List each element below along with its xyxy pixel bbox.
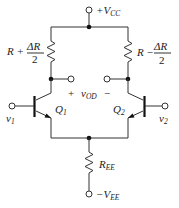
- left-resistor-denominator: 2: [32, 53, 38, 65]
- vee-label: −VEE: [96, 188, 120, 202]
- tail-resistor: REE: [85, 138, 115, 191]
- output-minus-sign: −: [104, 87, 110, 99]
- vcc-node-icon: [87, 25, 92, 30]
- vcc-supply: +VCC: [86, 4, 121, 27]
- output-port: + vOD −: [49, 76, 131, 101]
- v1-input-terminal-icon: [9, 103, 15, 109]
- left-collector-resistor: R + ΔR 2: [6, 38, 55, 79]
- output-plus-terminal-icon: [68, 76, 74, 82]
- left-resistor-numerator: ΔR: [26, 40, 40, 52]
- vcc-label: +VCC: [96, 4, 121, 18]
- transistor-q1: v1 Q1: [6, 79, 89, 138]
- v1-label: v1: [6, 112, 15, 126]
- q1-emitter-arrow-icon: [45, 114, 52, 119]
- resistor-zigzag-icon: [124, 38, 132, 79]
- output-voltage-label: vOD: [81, 87, 97, 101]
- vee-supply: −VEE: [86, 188, 120, 202]
- differential-amplifier-schematic: +VCC R + ΔR 2 R − ΔR 2 + vOD −: [0, 0, 179, 208]
- q2-emitter-arrow-icon: [128, 114, 135, 119]
- right-collector-resistor: R − ΔR 2: [124, 38, 171, 79]
- right-resistor-numerator: ΔR: [153, 40, 167, 52]
- q1-label: Q1: [55, 103, 67, 117]
- v2-label: v2: [159, 112, 168, 126]
- transistor-q2: v2 Q2: [89, 79, 168, 138]
- resistor-zigzag-icon: [85, 138, 93, 191]
- vcc-terminal-icon: [86, 7, 92, 13]
- output-plus-sign: +: [68, 87, 74, 99]
- v2-input-terminal-icon: [162, 103, 168, 109]
- right-resistor-denominator: 2: [159, 54, 165, 66]
- output-minus-terminal-icon: [104, 76, 110, 82]
- vee-terminal-icon: [86, 191, 92, 197]
- left-resistor-label: R +: [6, 45, 24, 57]
- resistor-zigzag-icon: [47, 38, 55, 79]
- q2-label: Q2: [113, 103, 125, 117]
- right-resistor-label: R −: [136, 46, 154, 58]
- ree-label: REE: [98, 158, 115, 172]
